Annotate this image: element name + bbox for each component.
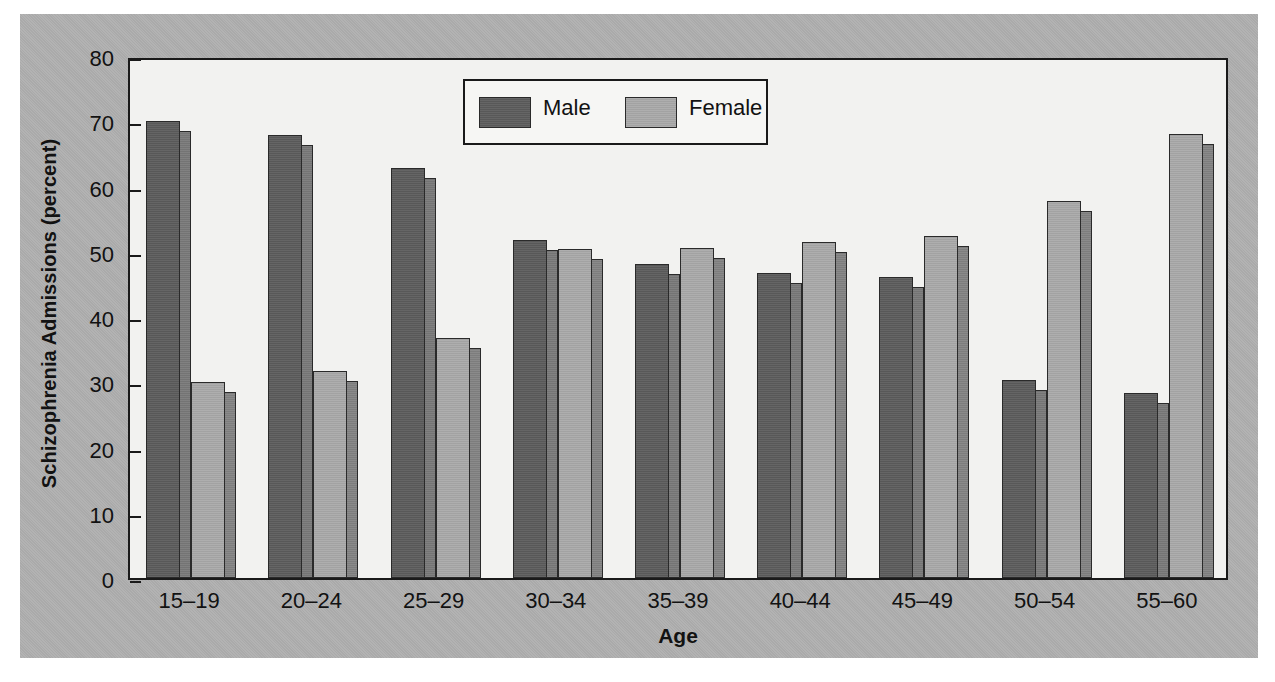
y-axis-tick-label: 70 [44, 111, 114, 137]
bar-side-face [470, 348, 481, 578]
bar-female-45–49 [924, 236, 969, 578]
y-axis-tick-label: 50 [44, 242, 114, 268]
chart-figure: Schizophrenia Admissions (percent) 01020… [0, 0, 1275, 682]
legend-label-male: Male [543, 95, 591, 121]
bar-female-25–29 [436, 338, 481, 578]
bar-front-face [146, 121, 180, 578]
legend-label-female: Female [689, 95, 762, 121]
bar-front-face [802, 242, 836, 578]
bar-group [879, 60, 969, 578]
bar-front-face [680, 248, 714, 578]
y-axis-tick-mark [130, 385, 141, 387]
bar-group [1124, 60, 1214, 578]
bar-side-face [791, 283, 802, 578]
y-axis-tick-label: 30 [44, 372, 114, 398]
x-axis-tick-label: 55–60 [1087, 588, 1247, 614]
bar-male-20–24 [268, 135, 313, 578]
bar-male-45–49 [879, 277, 924, 578]
y-axis-tick-mark [130, 190, 141, 192]
y-axis-tick-mark [130, 59, 141, 61]
y-axis-tick-mark [130, 320, 141, 322]
bar-side-face [1081, 211, 1092, 578]
bar-female-20–24 [313, 371, 358, 578]
bar-male-15–19 [146, 121, 191, 578]
legend-swatch-male [479, 97, 531, 128]
bar-front-face [268, 135, 302, 578]
bar-side-face [547, 250, 558, 578]
bar-male-40–44 [757, 273, 802, 578]
bar-side-face [425, 178, 436, 578]
y-axis-tick-mark [130, 124, 141, 126]
bar-front-face [191, 382, 225, 578]
bar-male-50–54 [1002, 380, 1047, 578]
bar-front-face [391, 168, 425, 578]
bar-front-face [635, 264, 669, 578]
bar-front-face [1169, 134, 1203, 578]
bar-female-50–54 [1047, 201, 1092, 578]
bar-female-40–44 [802, 242, 847, 578]
y-axis-tick-mark [130, 255, 141, 257]
bar-front-face [558, 249, 592, 579]
bar-side-face [302, 145, 313, 578]
bar-group [268, 60, 358, 578]
bar-male-30–34 [513, 240, 558, 578]
bar-side-face [913, 287, 924, 578]
bar-female-55–60 [1169, 134, 1214, 578]
bar-female-35–39 [680, 248, 725, 578]
chart-legend: MaleFemale [463, 79, 768, 145]
bar-side-face [1203, 144, 1214, 578]
y-axis-tick-label: 10 [44, 503, 114, 529]
bar-side-face [1036, 390, 1047, 578]
y-axis-tick-mark [130, 581, 141, 583]
bar-front-face [879, 277, 913, 578]
y-axis-tick-mark [130, 451, 141, 453]
bar-front-face [436, 338, 470, 578]
y-axis-tick-label: 0 [44, 568, 114, 594]
y-axis-tick-label: 60 [44, 177, 114, 203]
x-axis-title: Age [128, 624, 1228, 648]
bar-front-face [1002, 380, 1036, 578]
bar-male-25–29 [391, 168, 436, 578]
bar-female-30–34 [558, 249, 603, 579]
bar-group [1002, 60, 1092, 578]
bar-side-face [669, 274, 680, 578]
bar-front-face [1124, 393, 1158, 578]
bar-female-15–19 [191, 382, 236, 578]
bar-side-face [1158, 403, 1169, 578]
bar-male-35–39 [635, 264, 680, 578]
bar-front-face [924, 236, 958, 578]
bar-male-55–60 [1124, 393, 1169, 578]
legend-swatch-female [625, 97, 677, 128]
bar-side-face [958, 246, 969, 578]
chart-panel: Schizophrenia Admissions (percent) 01020… [20, 14, 1258, 658]
bar-side-face [714, 258, 725, 578]
bar-side-face [347, 381, 358, 578]
y-axis-tick-mark [130, 516, 141, 518]
bar-side-face [180, 131, 191, 578]
bar-front-face [1047, 201, 1081, 578]
bar-side-face [592, 259, 603, 579]
bar-side-face [225, 392, 236, 578]
y-axis-tick-label: 80 [44, 46, 114, 72]
bar-front-face [313, 371, 347, 578]
bar-group [757, 60, 847, 578]
bar-front-face [513, 240, 547, 578]
bar-group [146, 60, 236, 578]
bar-side-face [836, 252, 847, 578]
y-axis-tick-label: 20 [44, 438, 114, 464]
bar-front-face [757, 273, 791, 578]
y-axis-tick-label: 40 [44, 307, 114, 333]
